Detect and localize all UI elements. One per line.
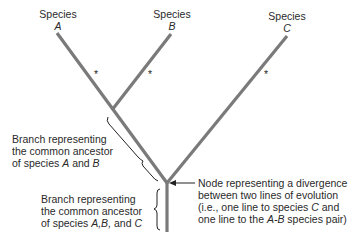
branch-abc-annotation: Branch representing the common ancestor … <box>41 193 142 229</box>
species-a-label: SpeciesA <box>34 8 82 32</box>
branch-b <box>112 34 171 110</box>
asterisk-c: * <box>264 68 268 80</box>
asterisk-b: * <box>148 68 152 80</box>
brace-ab <box>107 117 158 181</box>
asterisk-a: * <box>94 68 98 80</box>
species-c-label: SpeciesC <box>263 10 311 34</box>
species-b-label: SpeciesB <box>148 8 196 32</box>
brace-abc <box>154 189 160 230</box>
branch-ab-annotation: Branch representing the common ancestor … <box>12 133 113 169</box>
node-annotation: Node representing a divergence between t… <box>198 177 347 225</box>
phylogenetic-tree-diagram: SpeciesA SpeciesB SpeciesC * * * Branch … <box>0 0 357 240</box>
branch-c <box>167 36 287 183</box>
